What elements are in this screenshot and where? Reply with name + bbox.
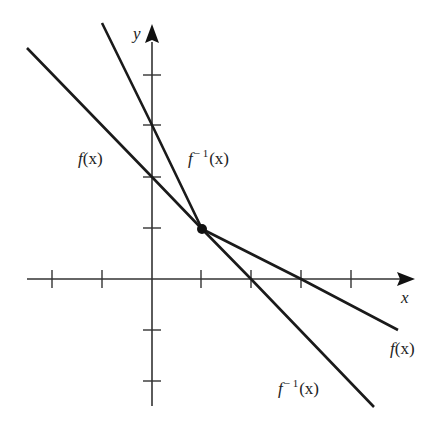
f-inverse-label-lower-sup: − 1 [284, 377, 298, 389]
f-label-lower-arg: (x) [395, 339, 415, 358]
x-axis-label: x [401, 289, 409, 306]
f-inverse-label-lower-base: f [278, 379, 283, 398]
f-inverse-label-lower: f− 1(x) [278, 380, 319, 397]
f-label-lower: f(x) [390, 340, 415, 357]
f-label-upper-arg: (x) [83, 149, 103, 168]
f-inverse-curve [102, 23, 374, 407]
f-inverse-label-upper-base: f [188, 149, 193, 168]
f-inverse-label-upper-arg: (x) [209, 149, 229, 168]
y-axis [143, 24, 161, 406]
intersection-point [197, 224, 207, 234]
f-inverse-label-upper-sup: − 1 [194, 147, 208, 159]
y-axis-label: y [133, 25, 141, 42]
f-curve [27, 48, 398, 330]
function-inverse-graph [0, 0, 442, 425]
f-inverse-label-upper: f− 1(x) [188, 150, 229, 167]
x-axis [27, 270, 415, 288]
f-inverse-label-lower-arg: (x) [299, 379, 319, 398]
f-label-upper: f(x) [78, 150, 103, 167]
y-axis-arrow-icon [145, 24, 159, 43]
